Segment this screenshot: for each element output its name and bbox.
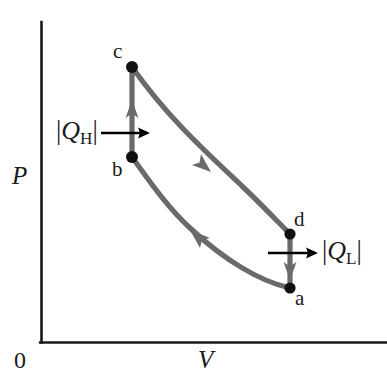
pv-diagram-figure: P V 0 c b d a |QH| |QL| [0, 0, 387, 381]
heat-high-label: |QH| [56, 117, 98, 147]
heat-high-subscript: H [80, 129, 92, 148]
origin-label: 0 [14, 348, 26, 372]
x-axis-label: V [198, 347, 213, 372]
heat-high-bar-right: | [92, 115, 97, 145]
point-a-dot [284, 282, 295, 293]
axes-group [40, 22, 387, 343]
heat-low-symbol: Q [327, 236, 346, 265]
state-label-b: b [112, 159, 123, 180]
heat-high-symbol: Q [61, 116, 80, 145]
state-label-d: d [294, 209, 305, 230]
pv-diagram-canvas [0, 0, 387, 381]
heat-low-bar-right: | [357, 235, 362, 265]
path-c-to-d [132, 67, 290, 234]
path-a-to-b [132, 157, 290, 288]
point-c-dot [126, 61, 138, 73]
point-b-dot [126, 151, 138, 163]
y-axis-label: P [12, 163, 27, 188]
state-label-c: c [113, 41, 122, 62]
heat-low-subscript: L [346, 249, 356, 268]
cycle-paths-group [132, 67, 290, 288]
heat-low-label: |QL| [322, 237, 362, 267]
state-label-a: a [295, 288, 304, 309]
